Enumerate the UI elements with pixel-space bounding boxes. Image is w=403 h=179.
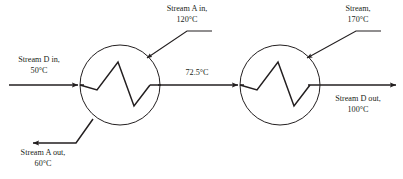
heat-exchanger-2-zigzag xyxy=(240,62,310,106)
label-intermediate-temperature-value: 72.5°C xyxy=(185,68,208,77)
label-stream-d-out-line1: Stream D out, xyxy=(335,94,381,103)
stream-a-outlet-line xyxy=(33,119,93,143)
label-stream-top-right-line2: 170°C xyxy=(322,15,394,26)
label-stream-a-in: Stream A in, 120°C xyxy=(150,4,224,25)
label-stream-a-out-line2: 60°C xyxy=(2,159,84,170)
label-stream-d-out: Stream D out, 100°C xyxy=(318,94,398,115)
label-stream-a-in-line2: 120°C xyxy=(150,15,224,26)
label-stream-d-out-line2: 100°C xyxy=(318,105,398,116)
label-stream-top-right: Stream, 170°C xyxy=(322,4,394,25)
label-stream-d-in-line2: 50°C xyxy=(6,66,72,77)
stream-top-right-leader xyxy=(307,31,381,58)
label-stream-a-out-line1: Stream A out, xyxy=(21,148,66,157)
label-stream-top-right-line1: Stream, xyxy=(345,4,370,13)
label-intermediate-temperature: 72.5°C xyxy=(170,68,224,79)
heat-exchanger-1-zigzag xyxy=(80,62,150,106)
heat-exchanger-diagram: Stream D in, 50°C Stream A in, 120°C Str… xyxy=(0,0,403,179)
stream-a-in-leader xyxy=(147,31,212,58)
label-stream-a-out: Stream A out, 60°C xyxy=(2,148,84,169)
label-stream-a-in-line1: Stream A in, xyxy=(167,4,208,13)
label-stream-d-in-line1: Stream D in, xyxy=(18,55,60,64)
label-stream-d-in: Stream D in, 50°C xyxy=(6,55,72,76)
